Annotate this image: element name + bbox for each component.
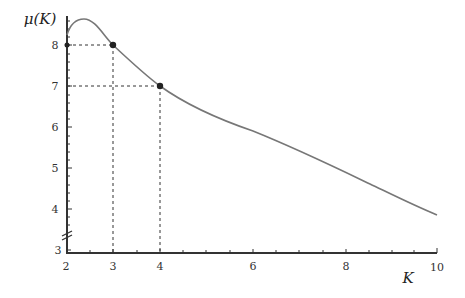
mu-k-chart: 8 7 6 5 4 3 2 3 4 6 8 10 μ(K) K (0, 0, 465, 298)
x-tick-8: 8 (343, 260, 350, 273)
x-tick-4: 4 (157, 260, 164, 273)
x-tick-3: 3 (110, 260, 117, 273)
x-tick-10: 10 (430, 261, 444, 274)
x-axis-title: K (401, 269, 414, 287)
y-tick-5: 5 (52, 162, 59, 175)
y-tick-6: 6 (52, 121, 59, 134)
point-y8-axis (65, 43, 70, 48)
y-tick-8: 8 (52, 39, 59, 52)
mu-curve (67, 19, 437, 215)
x-tick-2: 2 (63, 260, 70, 273)
y-tick-4: 4 (52, 203, 59, 216)
y-tick-3: 3 (55, 244, 62, 257)
point-k3 (110, 42, 116, 48)
x-tick-6: 6 (250, 260, 257, 273)
y-tick-7: 7 (52, 80, 59, 93)
point-k4 (157, 83, 163, 89)
guide-lines (67, 45, 160, 253)
y-axis-title: μ(K) (24, 10, 57, 28)
